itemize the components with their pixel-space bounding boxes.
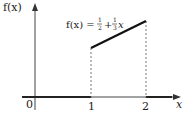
equation-plus: + [104, 19, 112, 30]
equation-var: x [118, 19, 124, 30]
frac2-num: 1 [113, 16, 117, 23]
frac1-num: 1 [98, 16, 102, 23]
chart-canvas: f(x) x 0 1 2 f(x) = 1 2 + 1 3 x [0, 0, 191, 119]
y-axis-arrow-icon [32, 3, 38, 11]
frac1-den: 2 [98, 24, 102, 31]
x-axis-label: x [176, 98, 183, 111]
tick-label-1: 1 [88, 100, 95, 113]
frac2-den: 3 [113, 24, 117, 31]
y-axis-label: f(x) [3, 1, 22, 14]
equation-lhs: f(x) = [66, 19, 95, 30]
function-equation: f(x) = 1 2 + 1 3 x [66, 16, 124, 31]
tick-label-2: 2 [142, 100, 149, 113]
origin-label: 0 [26, 98, 33, 111]
